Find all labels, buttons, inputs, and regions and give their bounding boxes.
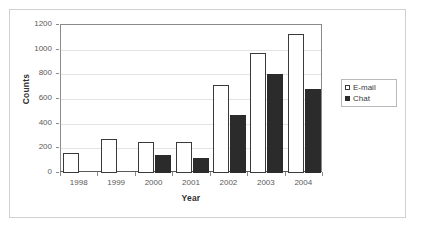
x-tick-mark (285, 172, 286, 176)
y-tick-label: 400 (16, 119, 52, 127)
chart-legend: E-mail Chat (341, 79, 397, 107)
y-tick-label: 1200 (16, 20, 52, 28)
bar-chat (267, 74, 283, 173)
bar-email (101, 139, 117, 173)
bar-email (288, 34, 304, 173)
y-tick-mark (56, 147, 59, 148)
y-tick-mark (56, 73, 59, 74)
filled-square-icon (345, 96, 350, 101)
x-tick-label: 2003 (246, 179, 286, 187)
bar-email (63, 153, 79, 173)
y-axis-title: Counts (21, 59, 31, 119)
x-tick-label: 2001 (171, 179, 211, 187)
x-tick-mark (210, 172, 211, 176)
bar-email (176, 142, 192, 173)
legend-label-chat: Chat (353, 95, 370, 103)
legend-item-email[interactable]: E-mail (345, 83, 393, 92)
x-axis-title: Year (0, 193, 382, 203)
plot-area (60, 24, 322, 172)
y-tick-label: 0 (16, 168, 52, 176)
legend-item-chat[interactable]: Chat (345, 94, 393, 103)
y-tick-mark (56, 24, 59, 25)
x-tick-label: 1998 (59, 179, 99, 187)
bar-email (213, 85, 229, 173)
y-tick-label: 200 (16, 143, 52, 151)
x-tick-label: 2000 (134, 179, 174, 187)
bar-email (250, 53, 266, 173)
bar-chat (305, 89, 321, 173)
gridline (61, 50, 321, 51)
x-tick-mark (247, 172, 248, 176)
x-tick-mark (135, 172, 136, 176)
x-tick-mark (97, 172, 98, 176)
bar-email (138, 142, 154, 173)
x-tick-mark (60, 172, 61, 176)
x-tick-mark (172, 172, 173, 176)
x-tick-mark (322, 172, 323, 176)
y-tick-label: 1000 (16, 45, 52, 53)
x-tick-label: 1999 (96, 179, 136, 187)
x-tick-label: 2002 (208, 179, 248, 187)
legend-label-email: E-mail (353, 84, 376, 92)
hollow-square-icon (345, 85, 350, 90)
y-tick-mark (56, 172, 59, 173)
bar-chat (230, 115, 246, 173)
bar-chart-figure: 0200400600800100012001998199920002001200… (0, 0, 424, 235)
y-tick-mark (56, 123, 59, 124)
bar-chat (155, 155, 171, 174)
x-tick-label: 2004 (283, 179, 323, 187)
y-tick-mark (56, 98, 59, 99)
bar-chat (193, 158, 209, 173)
y-tick-mark (56, 49, 59, 50)
